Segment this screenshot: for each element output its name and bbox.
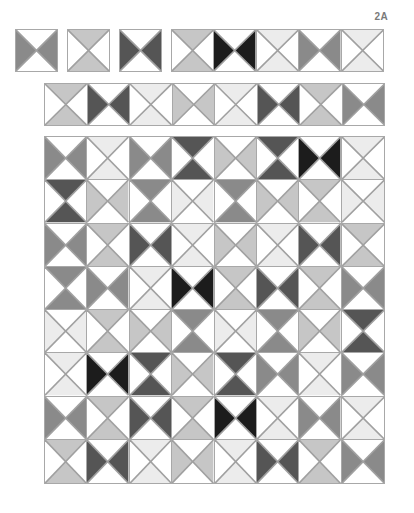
hourglass-triangles-icon — [172, 224, 213, 266]
hourglass-triangles-icon — [130, 137, 171, 179]
quilt-block — [343, 84, 385, 125]
hourglass-triangles-icon — [130, 353, 171, 395]
hourglass-triangles-icon — [342, 180, 384, 222]
quilt-block — [299, 267, 341, 310]
hourglass-triangles-icon — [130, 440, 171, 483]
hourglass-triangles-icon — [68, 30, 109, 71]
hourglass-triangles-icon — [88, 84, 130, 125]
quilt-block — [342, 440, 384, 483]
quilt-block — [215, 397, 257, 440]
hourglass-triangles-icon — [299, 310, 340, 352]
quilt-block — [299, 397, 341, 440]
quilt-block — [16, 30, 57, 71]
single-block-1 — [15, 29, 58, 72]
quilt-block — [214, 30, 256, 71]
quilt-block — [172, 30, 214, 71]
quilt-block — [172, 137, 214, 180]
quilt-block — [257, 180, 299, 223]
quilt-block — [215, 353, 257, 396]
hourglass-triangles-icon — [87, 267, 128, 309]
quilt-block — [45, 310, 87, 353]
quilt-block — [342, 30, 383, 71]
hourglass-triangles-icon — [45, 137, 86, 179]
hourglass-triangles-icon — [257, 137, 298, 179]
hourglass-triangles-icon — [87, 353, 128, 395]
quilt-block — [299, 353, 341, 396]
hourglass-triangles-icon — [215, 137, 256, 179]
quilt-block — [45, 353, 87, 396]
quilt-block — [215, 84, 258, 125]
top-block-strip — [171, 29, 384, 72]
quilt-block — [45, 267, 87, 310]
quilt-block — [299, 224, 341, 267]
hourglass-triangles-icon — [16, 30, 57, 71]
quilt-block — [257, 224, 299, 267]
hourglass-triangles-icon — [215, 224, 256, 266]
quilt-block — [87, 397, 129, 440]
quilt-block — [215, 224, 257, 267]
hourglass-triangles-icon — [172, 137, 213, 179]
hourglass-triangles-icon — [87, 137, 128, 179]
hourglass-triangles-icon — [87, 224, 128, 266]
hourglass-triangles-icon — [342, 224, 384, 266]
hourglass-triangles-icon — [342, 267, 384, 309]
quilt-block — [87, 353, 129, 396]
hourglass-triangles-icon — [45, 397, 86, 439]
hourglass-triangles-icon — [130, 84, 172, 125]
hourglass-triangles-icon — [87, 397, 128, 439]
hourglass-triangles-icon — [173, 84, 215, 125]
hourglass-triangles-icon — [130, 267, 171, 309]
hourglass-triangles-icon — [172, 440, 213, 483]
hourglass-triangles-icon — [172, 30, 213, 71]
hourglass-triangles-icon — [45, 310, 86, 352]
hourglass-triangles-icon — [172, 180, 213, 222]
quilt-block — [45, 397, 87, 440]
quilt-block — [87, 440, 129, 483]
quilt-block — [172, 397, 214, 440]
quilt-block — [120, 30, 161, 71]
quilt-block — [215, 180, 257, 223]
quilt-block — [68, 30, 109, 71]
quilt-block — [257, 137, 299, 180]
hourglass-triangles-icon — [257, 440, 298, 483]
quilt-block — [130, 84, 173, 125]
hourglass-triangles-icon — [215, 440, 256, 483]
quilt-block — [130, 310, 172, 353]
hourglass-triangles-icon — [342, 30, 383, 71]
hourglass-triangles-icon — [215, 397, 256, 439]
hourglass-triangles-icon — [257, 224, 298, 266]
hourglass-triangles-icon — [130, 224, 171, 266]
hourglass-triangles-icon — [342, 397, 384, 439]
hourglass-triangles-icon — [257, 397, 298, 439]
hourglass-triangles-icon — [120, 30, 161, 71]
row-strip — [44, 83, 385, 126]
hourglass-triangles-icon — [45, 267, 86, 309]
quilt-block — [87, 310, 129, 353]
single-block-3 — [119, 29, 162, 72]
quilt-block — [257, 267, 299, 310]
quilt-block — [300, 84, 343, 125]
quilt-block — [130, 224, 172, 267]
hourglass-triangles-icon — [258, 84, 300, 125]
hourglass-triangles-icon — [215, 310, 256, 352]
quilt-block — [172, 353, 214, 396]
hourglass-triangles-icon — [87, 440, 128, 483]
hourglass-triangles-icon — [299, 267, 340, 309]
quilt-block — [342, 310, 384, 353]
hourglass-triangles-icon — [45, 84, 87, 125]
quilt-block — [172, 310, 214, 353]
quilt-block — [215, 267, 257, 310]
quilt-block — [87, 137, 129, 180]
hourglass-triangles-icon — [257, 310, 298, 352]
hourglass-triangles-icon — [299, 397, 340, 439]
quilt-block — [45, 137, 87, 180]
quilt-block — [45, 180, 87, 223]
hourglass-triangles-icon — [172, 397, 213, 439]
quilt-grid — [44, 136, 385, 484]
hourglass-triangles-icon — [172, 267, 213, 309]
quilt-block — [215, 310, 257, 353]
quilt-block — [87, 267, 129, 310]
quilt-block — [130, 440, 172, 483]
hourglass-triangles-icon — [342, 440, 384, 483]
quilt-block — [257, 440, 299, 483]
